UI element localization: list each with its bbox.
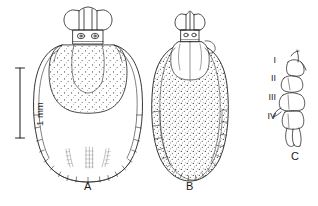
coxa-label-iv: IV xyxy=(262,111,276,121)
panel-c-coxae xyxy=(273,50,306,147)
panel-label-b: B xyxy=(186,180,194,192)
coxa-label-iii: III xyxy=(262,92,276,102)
tick-morphology-figure: 1 mm I II III IV A B C xyxy=(0,0,318,206)
figure-illustration xyxy=(0,0,318,206)
scale-bar-label: 1 mm xyxy=(34,102,45,126)
panel-label-a: A xyxy=(84,180,92,192)
panel-label-c: C xyxy=(291,150,299,162)
coxa-label-ii: II xyxy=(262,73,276,83)
panel-a-tick-male xyxy=(34,7,143,182)
scutum-a xyxy=(49,45,127,113)
panel-b-tick-female xyxy=(152,11,229,181)
ventral-plates-a xyxy=(66,147,111,168)
coxa-label-i: I xyxy=(262,55,276,65)
festoons-a xyxy=(34,115,142,182)
scale-bar-graphic xyxy=(16,68,25,138)
